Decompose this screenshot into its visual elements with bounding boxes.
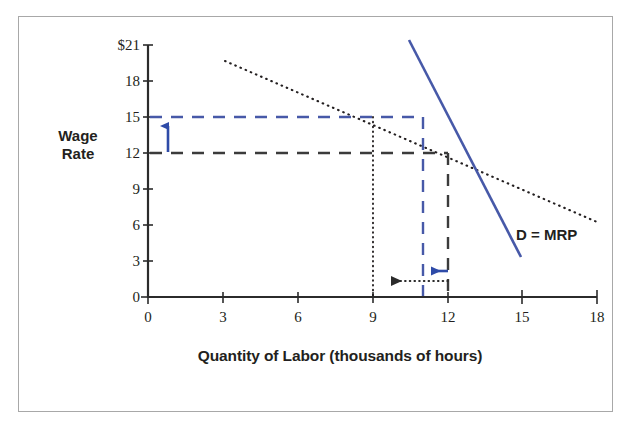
y-tick-label-3: 3 <box>112 253 140 270</box>
x-tick-label-18: 18 <box>590 309 605 326</box>
demand-curve-label: D = MRP <box>516 226 577 243</box>
figure-canvas: 0 3 6 9 12 15 18 $21 0 3 6 9 12 15 18 Wa… <box>0 0 629 429</box>
y-tick-label-18: 18 <box>112 73 140 90</box>
x-tick-label-6: 6 <box>294 309 302 326</box>
flat-demand-curve <box>225 61 597 222</box>
y-axis-title-line-1: Wage <box>36 127 120 145</box>
y-tick-label-6: 6 <box>112 217 140 234</box>
y-axis-title: Wage Rate <box>36 127 120 163</box>
x-axis-title: Quantity of Labor (thousands of hours) <box>100 347 580 365</box>
x-tick-label-0: 0 <box>144 309 152 326</box>
y-tick-label-15: 15 <box>112 109 140 126</box>
x-tick-label-15: 15 <box>515 309 530 326</box>
y-tick-label-9: 9 <box>112 181 140 198</box>
y-axis-title-line-2: Rate <box>36 145 120 163</box>
y-tick-label-0: 0 <box>112 289 140 306</box>
x-tick-label-12: 12 <box>441 309 456 326</box>
y-tick-label-21: $21 <box>96 37 140 54</box>
x-tick-label-3: 3 <box>219 309 227 326</box>
x-tick-label-9: 9 <box>369 309 377 326</box>
